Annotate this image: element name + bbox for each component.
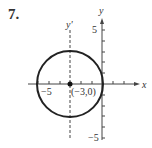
y-axis-arrow-icon [100,18,104,24]
y-axis-label: y [98,5,104,16]
x-tick-label-neg5: −5 [41,86,52,97]
coordinate-diagram: y x y' 5 −5 −5 (−3,0) [0,0,152,148]
translated-y-axis-label: y' [65,19,73,30]
center-label: (−3,0) [71,86,96,98]
x-axis-label: x [141,79,147,90]
y-tick-label-5: 5 [92,24,97,35]
x-axis-arrow-icon [134,82,140,86]
y-tick-label-neg5: −5 [88,132,99,143]
